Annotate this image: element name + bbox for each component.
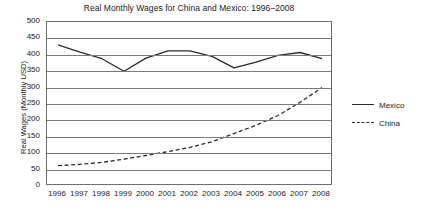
gridline xyxy=(47,120,331,121)
legend-line-solid-icon xyxy=(352,101,374,109)
legend-line-dashed-icon xyxy=(352,119,374,127)
legend-item-mexico: Mexico xyxy=(352,96,428,114)
gridline xyxy=(47,104,331,105)
y-axis-tick-label: 450 xyxy=(0,33,40,41)
y-axis-tick-label: 350 xyxy=(0,66,40,74)
legend-label-mexico: Mexico xyxy=(379,101,404,110)
gridline xyxy=(47,137,331,138)
legend-item-china: China xyxy=(352,114,428,132)
y-axis-tick-label: 200 xyxy=(0,115,40,123)
gridline xyxy=(47,38,331,39)
chart-container: Real Monthly Wages for China and Mexico:… xyxy=(0,0,428,215)
y-axis-tick-label: 0 xyxy=(0,181,40,189)
y-axis-tick-label: 250 xyxy=(0,99,40,107)
gridline xyxy=(47,55,331,56)
y-axis-tick-label: 50 xyxy=(0,165,40,173)
gridline xyxy=(47,170,331,171)
gridline xyxy=(47,88,331,89)
series-line-mexico xyxy=(58,45,322,71)
plot-area xyxy=(46,21,332,185)
y-axis-tick-label: 100 xyxy=(0,148,40,156)
y-axis-tick-label: 150 xyxy=(0,132,40,140)
chart-legend: Mexico China xyxy=(352,96,428,132)
y-axis-tick-label: 400 xyxy=(0,50,40,58)
gridline xyxy=(47,71,331,72)
y-axis-tick-label: 300 xyxy=(0,83,40,91)
gridline xyxy=(47,153,331,154)
y-axis-tick-label: 500 xyxy=(0,17,40,25)
x-axis-tick-label: 2008 xyxy=(306,190,336,198)
legend-label-china: China xyxy=(379,119,400,128)
chart-title: Real Monthly Wages for China and Mexico:… xyxy=(46,3,332,13)
